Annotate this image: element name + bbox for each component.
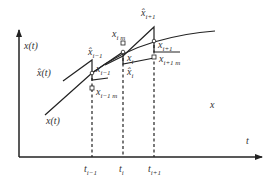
marker-x-prev-m (90, 86, 94, 90)
label-x-prev-m: xi−1 m (95, 86, 117, 100)
tick-label-t-prev: ti−1 (84, 163, 97, 177)
tick-label-t-next: ti+1 (148, 163, 161, 177)
label-x-i-m: xi m (111, 28, 125, 42)
label-x-next-m: xi+1 m (158, 53, 180, 67)
tick-label-t-i: ti (119, 163, 124, 177)
label-xhat-i: x̂i (126, 66, 133, 80)
marker-x-prev (90, 71, 94, 75)
region-label: x (209, 99, 215, 110)
label-xhat-prev: x̂i−1 (87, 46, 103, 60)
marker-x-next (152, 39, 156, 43)
marker-x-next-m (152, 55, 156, 59)
y-axis-label: x(t) (23, 40, 39, 52)
marker-x-i (121, 50, 125, 54)
x-axis-label: t (246, 135, 249, 146)
label-x-next: xi+1 (157, 39, 173, 53)
estimate-curve-label: x̂(t) (36, 67, 52, 79)
label-xhat-next: x̂i+1 (140, 7, 156, 21)
label-x-i: xi (126, 52, 133, 66)
diagram: x(t) t x x(t) x̂(t) ti−1 ti ti+1 x̂i−1 x… (0, 0, 275, 184)
true-curve-label: x(t) (45, 115, 61, 127)
